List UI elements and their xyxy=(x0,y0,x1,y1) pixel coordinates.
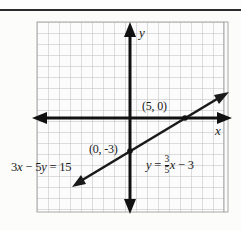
slope-fraction: 3 5 xyxy=(165,155,170,176)
x-axis-label: x xyxy=(215,124,221,137)
standard-var-x: x xyxy=(17,160,22,174)
point-label-y-intercept: (0, -3) xyxy=(89,143,118,155)
graph-figure: y x (5, 0) (0, -3) 3x − 5y = 15 y = 3 5 … xyxy=(0,0,241,230)
slope-numerator: 3 xyxy=(165,155,170,165)
point-label-x-intercept: (5, 0) xyxy=(142,100,167,112)
standard-constant: 15 xyxy=(59,160,71,174)
si-constant: 3 xyxy=(188,158,194,172)
si-equals: = xyxy=(154,158,161,172)
slope-intercept-equation: y = 3 5 x − 3 xyxy=(146,155,194,176)
y-axis-label: y xyxy=(139,26,145,39)
point-0-neg3 xyxy=(127,148,133,154)
slope-denominator: 5 xyxy=(165,166,170,176)
si-var-x: x xyxy=(170,158,175,172)
coordinate-plane-graphic xyxy=(0,0,241,230)
standard-operator: − xyxy=(25,160,32,174)
point-5-0 xyxy=(182,115,188,121)
standard-var-y: y xyxy=(41,160,46,174)
si-var-y: y xyxy=(146,158,151,172)
si-operator: − xyxy=(178,158,185,172)
standard-form-equation: 3x − 5y = 15 xyxy=(11,161,71,174)
standard-equals: = xyxy=(50,160,57,174)
